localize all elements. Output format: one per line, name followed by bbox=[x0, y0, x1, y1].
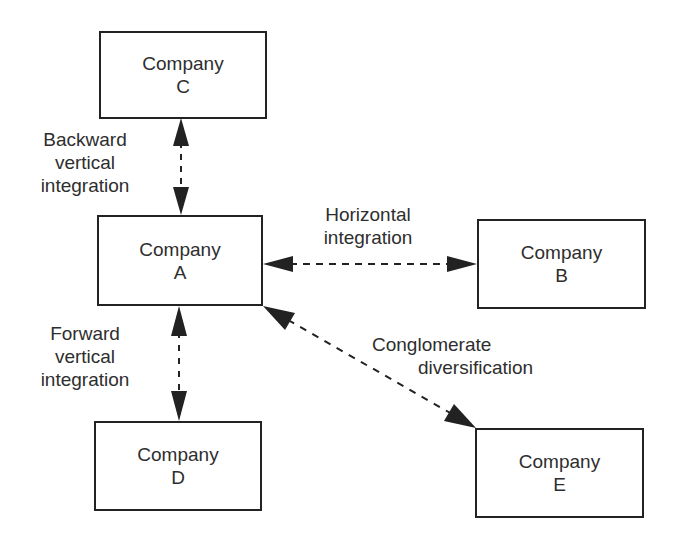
label-backward-vertical-integration: Backward vertical integration bbox=[30, 128, 140, 197]
node-company-c: Company C bbox=[99, 31, 267, 119]
node-label: Company bbox=[137, 443, 218, 466]
node-letter: B bbox=[555, 264, 568, 287]
forward-integration-arrow bbox=[171, 306, 187, 421]
node-letter: D bbox=[171, 466, 185, 489]
node-label: Company bbox=[139, 238, 220, 261]
label-conglomerate-diversification: Conglomerate diversification bbox=[368, 333, 568, 379]
node-letter: A bbox=[174, 261, 187, 284]
horizontal-integration-arrow bbox=[263, 256, 477, 272]
node-label: Company bbox=[521, 241, 602, 264]
backward-integration-arrow bbox=[173, 118, 189, 215]
node-company-b: Company B bbox=[477, 219, 646, 309]
node-company-a: Company A bbox=[97, 215, 263, 306]
node-label: Company bbox=[142, 52, 223, 75]
label-forward-vertical-integration: Forward vertical integration bbox=[30, 322, 140, 391]
node-letter: C bbox=[176, 75, 190, 98]
label-horizontal-integration: Horizontal integration bbox=[308, 203, 428, 249]
node-label: Company bbox=[519, 450, 600, 473]
node-company-d: Company D bbox=[94, 421, 262, 511]
node-letter: E bbox=[553, 473, 566, 496]
node-company-e: Company E bbox=[475, 428, 644, 518]
diagram-canvas: Company C Company A Company B Company D … bbox=[0, 0, 676, 542]
